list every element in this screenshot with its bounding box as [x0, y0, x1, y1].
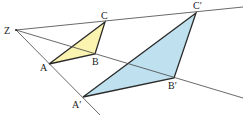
- label-a: A: [40, 63, 47, 73]
- label-a-prime: A′: [72, 100, 81, 110]
- label-b-prime: B′: [168, 81, 177, 91]
- label-b: B: [92, 57, 99, 67]
- label-c: C: [101, 11, 108, 21]
- label-c-prime: C′: [193, 1, 202, 11]
- diagram-canvas: [0, 0, 250, 119]
- centre-point-z: [15, 29, 17, 31]
- ray-zc: [16, 7, 243, 30]
- enlargement-diagram: Z C A B A′ B′ C′: [0, 0, 250, 119]
- label-z: Z: [4, 26, 10, 36]
